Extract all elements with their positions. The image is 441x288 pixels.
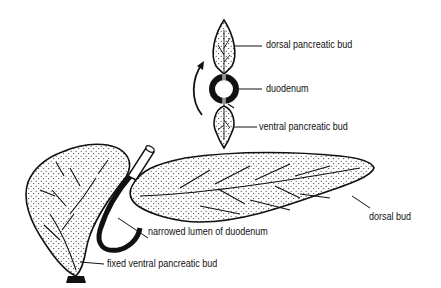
rotation-arrow-icon (194, 61, 204, 115)
ventral-pancreatic-bud-top (214, 104, 234, 148)
label-ventral-pancreatic-bud: ventral pancreatic bud (259, 120, 348, 132)
label-narrowed-lumen: narrowed lumen of duodenum (148, 225, 268, 237)
dorsal-pancreatic-bud-top (213, 20, 235, 74)
label-dorsal-pancreatic-bud: dorsal pancreatic bud (266, 38, 352, 50)
duodenum-ring (212, 74, 236, 106)
diagram-canvas (0, 0, 441, 288)
label-duodenum: duodenum (266, 82, 309, 94)
label-dorsal-bud: dorsal bud (369, 210, 411, 222)
leader-line-narrowed-lumen (118, 218, 148, 238)
leader-line-dorsal-bud (352, 196, 370, 208)
dorsal-bud-body (130, 153, 374, 223)
label-fixed-ventral-pancreatic-bud: fixed ventral pancreatic bud (107, 257, 217, 269)
